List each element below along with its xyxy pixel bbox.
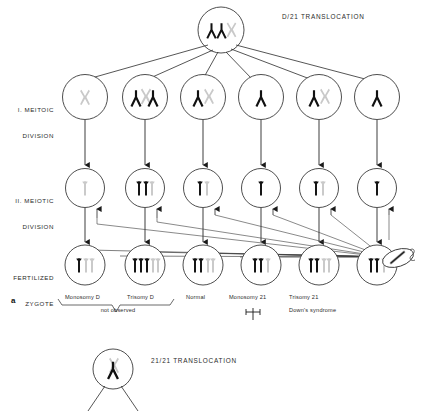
outcome-label-not-observed: not observed: [88, 307, 148, 313]
meiosis-i-cell-4: [239, 75, 284, 120]
row-label-meiosis-ii: II. MEIOTIC DIVISION: [0, 180, 54, 248]
row-label-fertilized-zygote: FERTILIZED ZYGOTE: [0, 257, 54, 325]
zygote-cells: [65, 245, 397, 285]
zygote-cell-4: [241, 245, 281, 285]
outcome-label-monosomy-d: Monosomy D: [65, 294, 100, 300]
title-d21-translocation: D/21 TRANSLOCATION: [282, 13, 365, 20]
outcome-label-trisomy-d: Trisomy D: [127, 294, 154, 300]
row-label-meiosis-i-line1: I. MEITOIC: [0, 106, 54, 115]
zygote-cell-5: [299, 245, 339, 285]
meiosis-i-cell-6: [355, 75, 400, 120]
meiosis-ii-cell-2: [126, 169, 165, 208]
meiosis-ii-cell-1: [66, 169, 105, 208]
genetics-pedigree-diagram: [0, 0, 422, 411]
outcome-label-monosomy-21: Monosomy 21: [229, 294, 266, 300]
meiosis-ii-arrows: [85, 120, 377, 165]
title-2121-translocation: 21/21 TRANSLOCATION: [151, 357, 237, 364]
zygote-cell-3: [183, 245, 223, 285]
outcome-label-trisomy-21: Trisomy 21: [289, 294, 318, 300]
meiosis-i-cell-5: [297, 75, 342, 120]
fan-up-arrows: [97, 209, 389, 218]
zygote-cell-2: [125, 245, 165, 285]
meiosis-i-cells: [63, 75, 400, 120]
bottom-connectors: [88, 386, 138, 411]
zygote-arrows: [85, 208, 377, 242]
row-label-meiosis-i: I. MEITOIC DIVISION: [0, 89, 54, 157]
outcome-label-normal: Normal: [186, 294, 205, 300]
row-label-zygote-line1: FERTILIZED: [0, 274, 54, 283]
panel-letter-a: a: [11, 296, 16, 305]
meiosis-ii-cell-5: [300, 169, 339, 208]
meiosis-i-cell-1: [63, 75, 108, 120]
meiosis-ii-cell-4: [242, 169, 281, 208]
meiosis-ii-cell-6: [358, 169, 397, 208]
row-label-zygote-line2: ZYGOTE: [0, 300, 54, 309]
dagger-symbol: [246, 308, 260, 320]
outcome-label-downs-syndrome: Down's syndrome: [289, 307, 336, 313]
meiosis-ii-cells: [66, 169, 397, 208]
meiosis-i-cell-3: [181, 75, 226, 120]
row-label-meiosis-i-line2: DIVISION: [0, 132, 54, 141]
row-label-meiosis-ii-line1: II. MEIOTIC: [0, 197, 54, 206]
figure-canvas: D/21 TRANSLOCATION I. MEITOIC DIVISION I…: [0, 0, 422, 411]
meiosis-ii-cell-3: [184, 169, 223, 208]
zygote-cell-1: [65, 245, 105, 285]
meiosis-i-cell-2: [123, 75, 168, 120]
bottom-parent-cell-2121: [93, 349, 133, 389]
row-label-meiosis-ii-line2: DIVISION: [0, 223, 54, 232]
